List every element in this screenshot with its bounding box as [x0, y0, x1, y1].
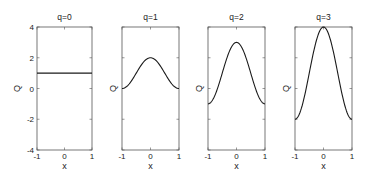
subplot-q3: q=3-101xQ [281, 12, 355, 171]
subplot-q0: q=0-101x420-2-4Q [12, 12, 95, 171]
x-axis-label: x [148, 161, 153, 171]
y-tick-label: -2 [27, 115, 35, 124]
y-axis-label: Q [281, 85, 291, 92]
panel-title: q=3 [316, 12, 331, 22]
x-tick-label: 1 [177, 152, 182, 161]
x-tick-label: 1 [263, 152, 268, 161]
x-axis-label: x [321, 161, 326, 171]
y-axis-label: Q [108, 85, 118, 92]
figure: q=0-101x420-2-4Qq=1-101xQq=2-101xQq=3-10… [0, 0, 366, 179]
x-tick-label: 1 [350, 152, 355, 161]
data-line [122, 58, 179, 89]
y-axis-label: Q [194, 85, 204, 92]
x-tick-label: -1 [118, 152, 126, 161]
axes-box [37, 27, 92, 150]
y-tick-label: 4 [30, 23, 35, 32]
x-tick-label: 1 [90, 152, 95, 161]
x-axis-label: x [62, 161, 67, 171]
data-line [295, 27, 352, 119]
panel-title: q=2 [229, 12, 244, 22]
axes-box [295, 27, 352, 150]
axes-box [208, 27, 265, 150]
x-tick-label: 0 [321, 152, 326, 161]
x-tick-label: -1 [291, 152, 299, 161]
y-tick-label: -4 [27, 146, 35, 155]
subplot-q2: q=2-101xQ [194, 12, 268, 171]
y-tick-label: 2 [30, 54, 35, 63]
y-axis-label: Q [12, 85, 22, 92]
subplot-q1: q=1-101xQ [108, 12, 182, 171]
data-line [208, 42, 265, 103]
panel-title: q=1 [143, 12, 158, 22]
panel-title: q=0 [57, 12, 72, 22]
y-tick-label: 0 [30, 85, 35, 94]
axes-box [122, 27, 179, 150]
x-tick-label: -1 [33, 152, 41, 161]
x-tick-label: -1 [204, 152, 212, 161]
x-tick-label: 0 [62, 152, 67, 161]
x-axis-label: x [234, 161, 239, 171]
x-tick-label: 0 [234, 152, 239, 161]
x-tick-label: 0 [148, 152, 153, 161]
